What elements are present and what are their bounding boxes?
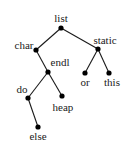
edge-endl-heap [48, 72, 62, 96]
node-this [106, 70, 111, 75]
node-label-do: do [17, 83, 29, 95]
node-heap [59, 93, 64, 98]
edge-static-or [85, 49, 98, 73]
node-do [25, 95, 30, 100]
node-list [58, 25, 63, 30]
node-else [35, 124, 40, 129]
node-label-or: or [80, 76, 90, 88]
node-static [95, 46, 100, 51]
edge-do-else [28, 98, 38, 127]
node-label-char: char [15, 39, 34, 51]
node-endl [45, 69, 50, 74]
node-label-list: list [54, 12, 67, 24]
tree-diagram: listcharstaticendlorthisdoheapelse [0, 0, 126, 146]
edge-static-this [98, 49, 109, 73]
node-label-this: this [104, 76, 120, 88]
node-char [33, 47, 38, 52]
node-or [82, 70, 87, 75]
node-label-endl: endl [51, 56, 70, 68]
edge-list-char [36, 28, 61, 50]
edge-endl-do [28, 72, 48, 98]
edge-char-endl [36, 50, 48, 72]
node-label-else: else [29, 130, 46, 142]
node-label-heap: heap [53, 101, 74, 113]
node-label-static: static [93, 34, 116, 46]
